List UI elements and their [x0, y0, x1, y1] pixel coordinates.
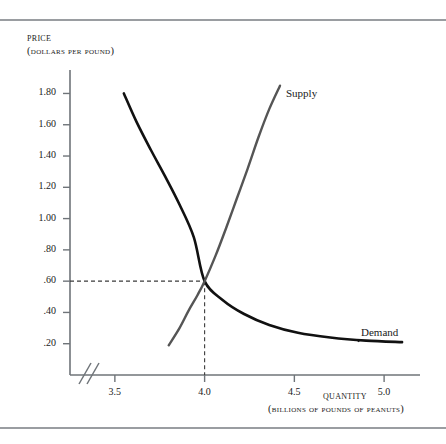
plot-area: [0, 0, 446, 444]
y-axis-ticks: [63, 93, 70, 343]
x-tick-label: 4.0: [190, 386, 220, 397]
y-tick-label: 1.20: [22, 180, 56, 191]
y-tick-label: .20: [22, 337, 56, 348]
x-tick-label: 4.5: [279, 386, 309, 397]
y-tick-label: .60: [22, 274, 56, 285]
demand-curve: [124, 93, 402, 342]
axis-lines: [70, 70, 420, 375]
x-axis-break-symbol: [79, 363, 99, 384]
x-tick-label: 5.0: [369, 386, 399, 397]
equilibrium-guide-lines: [70, 281, 205, 375]
supply-demand-figure: Price (dollars per pound) Quantity (bill…: [0, 0, 446, 444]
y-tick-label: 1.00: [22, 212, 56, 223]
y-tick-label: .80: [22, 243, 56, 254]
x-tick-label: 3.5: [100, 386, 130, 397]
demand-label-leader-line: [358, 340, 359, 341]
y-tick-label: 1.60: [22, 118, 56, 129]
y-tick-label: .40: [22, 305, 56, 316]
y-tick-label: 1.40: [22, 149, 56, 160]
x-axis-ticks: [115, 375, 384, 382]
y-tick-label: 1.80: [22, 86, 56, 97]
